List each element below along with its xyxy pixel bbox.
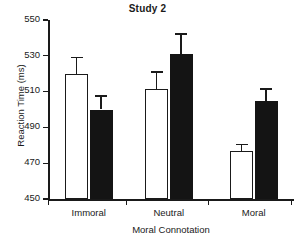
bar bbox=[255, 101, 278, 199]
error-bar-stem bbox=[265, 88, 266, 101]
y-axis-tick-label: 450 bbox=[24, 192, 40, 204]
bar bbox=[90, 110, 113, 200]
x-axis-tick bbox=[126, 200, 127, 205]
error-bar-stem bbox=[156, 71, 157, 89]
x-axis-category-label: Neutral bbox=[153, 207, 184, 218]
y-axis-tick-label: 510 bbox=[24, 84, 40, 96]
error-bar-stem bbox=[76, 57, 77, 74]
error-bar-stem bbox=[180, 33, 181, 54]
y-axis-tick-label: 530 bbox=[24, 49, 40, 61]
error-bar-cap bbox=[260, 88, 272, 90]
error-bar-cap bbox=[95, 95, 107, 97]
y-axis-tick: 530 bbox=[43, 55, 48, 56]
error-bar-cap bbox=[175, 33, 187, 35]
y-axis-tick: 510 bbox=[43, 91, 48, 92]
x-axis-tick bbox=[48, 200, 49, 205]
error-bar-cap bbox=[71, 57, 83, 59]
bar bbox=[65, 74, 88, 199]
error-bar-cap bbox=[151, 71, 163, 73]
x-axis-line bbox=[48, 199, 294, 201]
y-axis-tick-label: 550 bbox=[24, 13, 40, 25]
bar bbox=[145, 89, 168, 199]
chart-figure: Study 2 Reaction Time (ms) 4504704905105… bbox=[0, 0, 295, 242]
y-axis-tick-label: 470 bbox=[24, 156, 40, 168]
plot-area: 450470490510530550 ImmoralNeutralMoral bbox=[48, 20, 294, 199]
x-axis-tick bbox=[208, 200, 209, 205]
y-axis-tick: 470 bbox=[43, 163, 48, 164]
bar bbox=[170, 54, 193, 199]
x-axis-label: Moral Connotation bbox=[48, 224, 294, 235]
y-axis-tick-label: 490 bbox=[24, 120, 40, 132]
x-axis-tick bbox=[291, 200, 292, 205]
chart-title: Study 2 bbox=[0, 3, 295, 14]
y-axis-tick: 490 bbox=[43, 127, 48, 128]
x-axis-category-label: Moral bbox=[242, 207, 266, 218]
y-axis-tick: 550 bbox=[43, 19, 48, 20]
y-axis-line bbox=[48, 20, 50, 199]
x-axis-category-label: Immoral bbox=[72, 207, 106, 218]
error-bar-stem bbox=[100, 95, 101, 109]
bar bbox=[230, 151, 253, 199]
error-bar-cap bbox=[236, 144, 248, 146]
